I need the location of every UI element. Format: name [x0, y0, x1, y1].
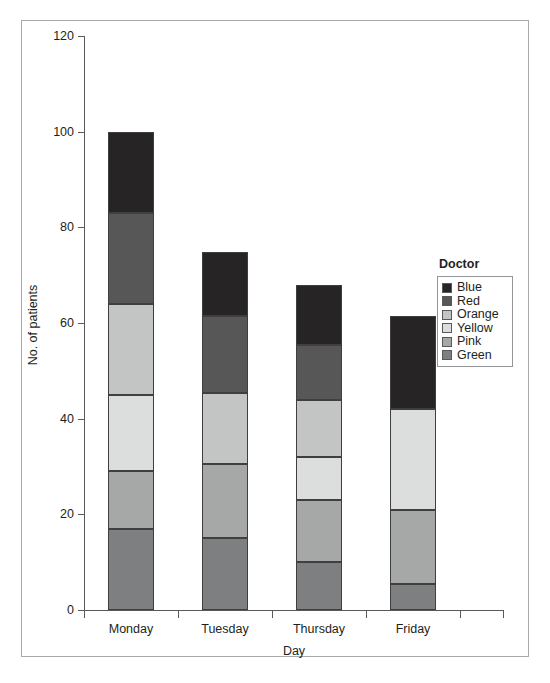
- legend-swatch-orange-icon: [442, 310, 452, 320]
- legend: Doctor BlueRedOrangeYellowPinkGreen: [437, 257, 513, 367]
- legend-item-green[interactable]: Green: [442, 349, 507, 363]
- legend-item-label: Pink: [457, 335, 481, 348]
- legend-item-label: Blue: [457, 281, 482, 294]
- legend-swatch-pink-icon: [442, 337, 452, 347]
- legend-box: BlueRedOrangeYellowPinkGreen: [437, 276, 513, 367]
- legend-swatch-green-icon: [442, 350, 452, 360]
- legend-item-blue[interactable]: Blue: [442, 281, 507, 295]
- legend-item-pink[interactable]: Pink: [442, 335, 507, 349]
- legend-swatch-yellow-icon: [442, 323, 452, 333]
- legend-item-label: Red: [457, 295, 480, 308]
- legend-item-orange[interactable]: Orange: [442, 308, 507, 322]
- legend-swatch-blue-icon: [442, 283, 452, 293]
- legend-item-label: Green: [457, 349, 492, 362]
- legend-title: Doctor: [439, 257, 513, 271]
- legend-item-yellow[interactable]: Yellow: [442, 322, 507, 336]
- legend-item-label: Orange: [457, 308, 499, 321]
- legend-item-red[interactable]: Red: [442, 295, 507, 309]
- legend-item-label: Yellow: [457, 322, 493, 335]
- figure-caption: [22, 672, 528, 683]
- legend-swatch-red-icon: [442, 296, 452, 306]
